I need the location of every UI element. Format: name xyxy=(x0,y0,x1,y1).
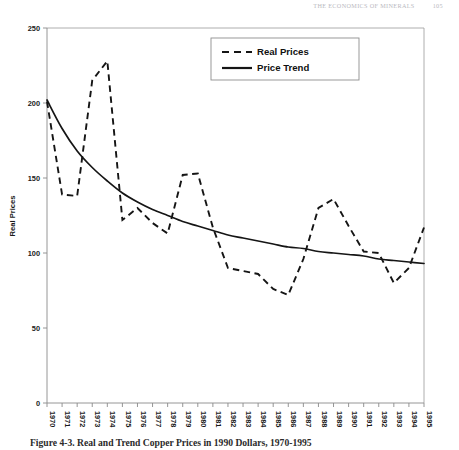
y-axis-tick-label: 50 xyxy=(32,324,40,333)
x-axis-ticks xyxy=(47,403,424,407)
y-axis-tick-label: 250 xyxy=(28,24,40,33)
series-line-price-trend xyxy=(47,100,424,264)
x-axis-tick-label: 1978 xyxy=(169,411,178,427)
x-axis-tick-label: 1992 xyxy=(380,411,389,427)
x-axis-tick-label: 1980 xyxy=(199,411,208,427)
x-axis-tick-label: 1993 xyxy=(395,411,404,427)
legend-label-real-prices: Real Prices xyxy=(257,46,309,57)
x-axis-tick-label: 1994 xyxy=(410,411,419,428)
x-axis-tick-labels: 1970197119721973197419751976197719781979… xyxy=(48,411,434,428)
x-axis-tick-label: 1991 xyxy=(365,411,374,427)
x-axis-tick-label: 1986 xyxy=(289,411,298,427)
figure-page: THE ECONOMICS OF MINERALS105 05010015020… xyxy=(0,0,459,450)
y-axis-tick-label: 150 xyxy=(28,174,40,183)
x-axis-tick-label: 1981 xyxy=(214,411,223,427)
legend-label-price-trend: Price Trend xyxy=(257,62,309,73)
x-axis-tick-label: 1976 xyxy=(139,411,148,427)
y-axis-ticks: 050100150200250 xyxy=(28,24,47,408)
x-axis-tick-label: 1974 xyxy=(108,411,117,428)
x-axis-tick-label: 1988 xyxy=(320,411,329,427)
x-axis-tick-label: 1982 xyxy=(229,411,238,427)
figure-caption: Figure 4-3. Real and Trend Copper Prices… xyxy=(30,437,450,448)
x-axis-tick-label: 1985 xyxy=(274,411,283,427)
series-group xyxy=(47,61,424,295)
x-axis-tick-label: 1973 xyxy=(93,411,102,427)
y-axis-tick-label: 100 xyxy=(28,249,40,258)
x-axis-tick-label: 1989 xyxy=(335,411,344,427)
x-axis-tick-label: 1983 xyxy=(244,411,253,427)
y-axis-title: Real Prices xyxy=(8,196,17,237)
x-axis-tick-label: 1970 xyxy=(48,411,57,427)
x-axis-tick-label: 1984 xyxy=(259,411,268,428)
y-axis-tick-label: 0 xyxy=(36,399,40,408)
x-axis-tick-label: 1971 xyxy=(63,411,72,427)
plot-frame xyxy=(47,28,424,403)
x-axis-tick-label: 1975 xyxy=(124,411,133,427)
x-axis-tick-label: 1995 xyxy=(425,411,434,427)
x-axis-tick-label: 1990 xyxy=(350,411,359,427)
chart-legend: Real Prices Price Trend xyxy=(211,38,359,80)
y-axis-tick-label: 200 xyxy=(28,99,40,108)
copper-prices-line-chart: 050100150200250 197019711972197319741975… xyxy=(0,0,459,450)
x-axis-tick-label: 1977 xyxy=(154,411,163,427)
x-axis-tick-label: 1979 xyxy=(184,411,193,427)
legend-box xyxy=(211,38,359,80)
x-axis-tick-label: 1972 xyxy=(78,411,87,427)
x-axis-tick-label: 1987 xyxy=(304,411,313,427)
